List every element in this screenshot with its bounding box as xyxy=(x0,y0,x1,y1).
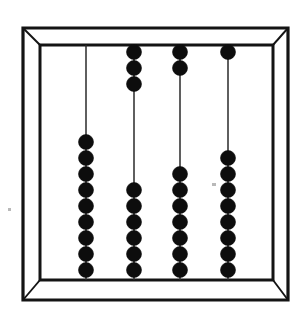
rod-4-bottom-bead-6 xyxy=(221,231,236,246)
rod-3-top-bead-1 xyxy=(173,45,188,60)
rod-3-bottom-bead-6 xyxy=(173,247,188,262)
rod-2-bottom-bead-1 xyxy=(127,183,142,198)
rod-2-bottom-bead-4 xyxy=(127,231,142,246)
rod-4-bottom-bead-1 xyxy=(221,151,236,166)
abacus-drawing xyxy=(0,0,308,319)
rod-4-bottom-bead-2 xyxy=(221,167,236,182)
rod-1-bottom-bead-9 xyxy=(79,263,94,278)
rod-1-bottom-bead-5 xyxy=(79,199,94,214)
rod-3-bottom-bead-2 xyxy=(173,183,188,198)
rod-2-bottom-bead-3 xyxy=(127,215,142,230)
rod-4-bottom-bead-3 xyxy=(221,183,236,198)
rod-1-bottom-bead-3 xyxy=(79,167,94,182)
rod-1-bottom-bead-1 xyxy=(79,135,94,150)
rod-2-top-bead-1 xyxy=(127,45,142,60)
rod-2-bottom-bead-6 xyxy=(127,263,142,278)
rod-1-bottom-bead-4 xyxy=(79,183,94,198)
rod-3-bottom-bead-1 xyxy=(173,167,188,182)
rod-4-bottom-bead-4 xyxy=(221,199,236,214)
rod-4-bottom-bead-8 xyxy=(221,263,236,278)
rod-4-top-bead-1 xyxy=(221,45,236,60)
rod-3-bottom-bead-3 xyxy=(173,199,188,214)
rod-4-bottom-bead-7 xyxy=(221,247,236,262)
rod-1-bottom-bead-2 xyxy=(79,151,94,166)
canvas-background xyxy=(0,0,308,319)
abacus-figure xyxy=(0,0,308,319)
rod-2-bottom-bead-2 xyxy=(127,199,142,214)
rod-3-bottom-bead-4 xyxy=(173,215,188,230)
rod-3-bottom-bead-7 xyxy=(173,263,188,278)
rod-2-top-bead-3 xyxy=(127,77,142,92)
rod-3-top-bead-2 xyxy=(173,61,188,76)
rod-1-bottom-bead-7 xyxy=(79,231,94,246)
rod-1-bottom-bead-6 xyxy=(79,215,94,230)
rod-4-bottom-bead-5 xyxy=(221,215,236,230)
rod-2-top-bead-2 xyxy=(127,61,142,76)
paper-speck-1 xyxy=(8,208,11,211)
rod-1-bottom-bead-8 xyxy=(79,247,94,262)
paper-speck-2 xyxy=(212,183,216,186)
rod-3-bottom-bead-5 xyxy=(173,231,188,246)
rod-2-bottom-bead-5 xyxy=(127,247,142,262)
